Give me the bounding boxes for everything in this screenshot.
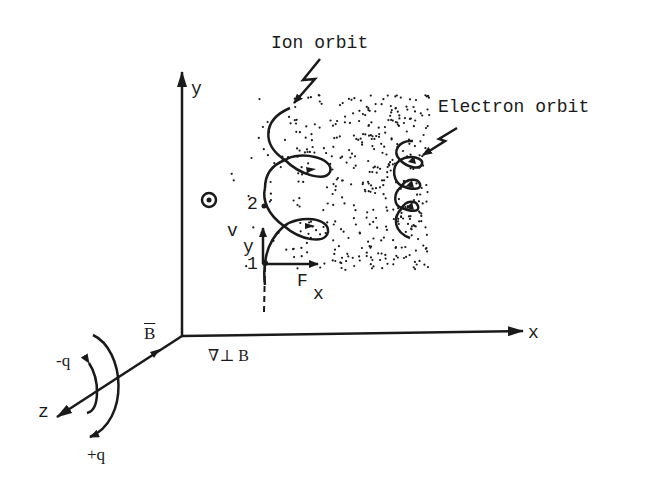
minus-q-arc — [87, 363, 97, 413]
z-axis-label: z — [38, 403, 49, 421]
force-subscript: x — [313, 285, 324, 303]
force-f-label: F — [297, 272, 308, 290]
minus-q-label: -q — [56, 352, 70, 369]
velocity-v-label: v — [227, 222, 238, 240]
point-2-label: 2 — [247, 195, 258, 213]
velocity-subscript: y — [243, 238, 254, 256]
ion-orbit-label: Ion orbit — [271, 34, 368, 52]
diagram-canvas — [0, 0, 665, 480]
plasma-density-dots — [231, 94, 431, 271]
electron-orbit-label: Electron orbit — [438, 98, 589, 116]
ion-orbit-path — [262, 108, 331, 285]
b-out-of-page-icon — [202, 193, 216, 207]
grad-b-label: ∇⊥ B — [208, 348, 249, 364]
b-field-label: B — [144, 325, 155, 342]
z-axis — [57, 336, 182, 417]
ion-orbit-pointer — [294, 59, 320, 103]
plus-q-label: +q — [87, 446, 105, 463]
y-axis-label: y — [191, 80, 202, 98]
electron-orbit-pointer — [423, 128, 457, 155]
x-axis-label: x — [528, 324, 539, 342]
point-1-label: 1 — [247, 255, 258, 273]
x-axis — [182, 331, 523, 336]
